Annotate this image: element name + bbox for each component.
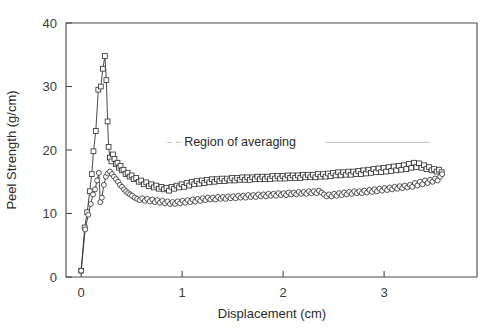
x-tick-label: 1: [179, 285, 186, 300]
x-tick-label: 0: [78, 285, 85, 300]
data-point-square: [105, 119, 110, 124]
data-point-circle: [440, 172, 445, 177]
y-tick-label: 10: [43, 206, 57, 221]
y-tick-label: 20: [43, 143, 57, 158]
data-point-circle: [99, 195, 104, 200]
data-point-circle: [91, 192, 96, 197]
data-point-square: [104, 78, 109, 83]
data-point-square: [100, 66, 105, 71]
y-tick-label: 40: [43, 16, 57, 31]
region-of-averaging-label: Region of averaging: [184, 135, 296, 149]
data-point-circle: [101, 182, 106, 187]
peel-strength-chart: 010203040 0123 Region of averaging Displ…: [0, 0, 495, 330]
x-tick-label: 3: [380, 285, 387, 300]
data-point-circle: [88, 201, 93, 206]
data-point-square: [93, 129, 98, 134]
y-tick-label: 0: [50, 270, 57, 285]
data-point-square: [98, 84, 103, 89]
data-point-circle: [79, 268, 84, 273]
data-point-square: [409, 165, 414, 170]
data-point-square: [89, 172, 94, 177]
data-point-square: [106, 144, 111, 149]
data-point-circle: [86, 212, 91, 217]
data-point-circle: [93, 187, 98, 192]
data-point-circle: [95, 178, 100, 183]
y-axis-title: Peel Strength (g/cm): [4, 90, 19, 209]
data-point-square: [404, 167, 409, 172]
data-point-circle: [96, 170, 101, 175]
y-tick-label: 30: [43, 79, 57, 94]
x-axis-title: Displacement (cm): [218, 306, 326, 321]
data-point-square: [91, 149, 96, 154]
x-tick-label: 2: [279, 285, 286, 300]
data-point-square: [102, 54, 107, 59]
data-point-circle: [83, 227, 88, 232]
figure-container: 010203040 0123 Region of averaging Displ…: [0, 0, 495, 330]
